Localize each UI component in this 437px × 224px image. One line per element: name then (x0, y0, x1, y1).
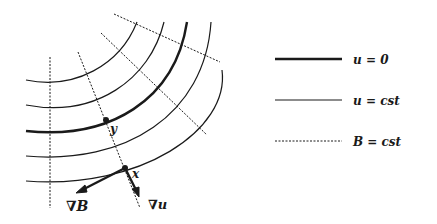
level-curve-B-4 (114, 14, 220, 62)
grad-B-arrowhead (76, 185, 87, 193)
point-x-label: x (131, 167, 140, 181)
legend-item-B-cst: B = cst (275, 135, 402, 149)
level-set-diagram: y x ∇B ∇u u = 0 u = cst B = cst (0, 0, 437, 224)
level-curves-u (26, 22, 222, 182)
legend: u = 0 u = cst B = cst (275, 53, 402, 149)
level-curve-B-2 (78, 52, 140, 208)
grad-B-label: ∇B (66, 198, 89, 214)
point-y (103, 117, 109, 123)
point-y-label: y (109, 122, 118, 136)
legend-item-u-zero: u = 0 (275, 53, 389, 67)
level-curve-u-cst-1 (26, 22, 137, 82)
legend-label-u-zero: u = 0 (353, 53, 389, 67)
grad-u-label: ∇u (148, 197, 167, 212)
legend-label-B-cst: B = cst (352, 135, 402, 149)
legend-label-u-cst: u = cst (353, 94, 400, 108)
legend-item-u-cst: u = cst (275, 94, 400, 108)
